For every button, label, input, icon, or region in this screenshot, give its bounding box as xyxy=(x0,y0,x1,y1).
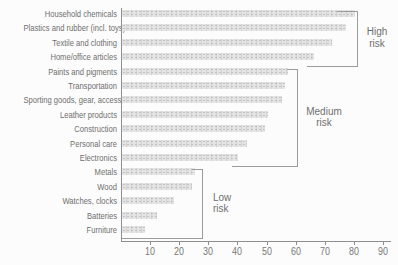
bar xyxy=(122,24,346,31)
category-label: Leather products xyxy=(23,109,117,120)
bar xyxy=(122,212,157,219)
category-label: Personal care xyxy=(23,138,117,149)
category-label: Paints and pigments xyxy=(23,66,117,77)
x-tick-label: 20 xyxy=(169,245,189,257)
category-label: Batteries xyxy=(23,210,117,221)
bar xyxy=(122,82,285,89)
bar xyxy=(122,111,268,118)
low-risk-label: Lowrisk xyxy=(213,192,253,215)
bar xyxy=(122,125,265,132)
bar xyxy=(122,226,145,233)
high-risk-bracket-top-tick xyxy=(337,11,357,12)
category-label: Watches, clocks xyxy=(23,195,117,206)
bar xyxy=(122,10,355,17)
x-tick-label: 30 xyxy=(198,245,218,257)
medium-risk-label-line: Medium xyxy=(301,106,347,118)
x-tick-label: 10 xyxy=(140,245,160,257)
x-tick-label: 60 xyxy=(285,245,305,257)
x-tick-label: 70 xyxy=(314,245,334,257)
x-axis-line xyxy=(121,241,391,242)
category-label: Wood xyxy=(23,181,117,192)
low-risk-bracket-vertical xyxy=(202,169,203,239)
category-label: Furniture xyxy=(23,224,117,235)
medium-risk-bracket-top-tick xyxy=(287,69,297,70)
category-label: Metals xyxy=(23,166,117,177)
category-label: Electronics xyxy=(23,152,117,163)
bar xyxy=(122,168,195,175)
high-risk-label-line: High xyxy=(361,26,393,38)
high-risk-bracket-vertical xyxy=(357,11,358,67)
high-risk-bracket-bottom-tick xyxy=(307,66,357,67)
bar xyxy=(122,197,174,204)
bar xyxy=(122,154,238,161)
high-risk-label: Highrisk xyxy=(361,26,393,49)
medium-risk-bracket-bottom-tick xyxy=(232,166,297,167)
medium-risk-label: Mediumrisk xyxy=(301,106,347,129)
x-tick-label: 40 xyxy=(227,245,247,257)
risk-bar-chart: Household chemicalsPlastics and rubber (… xyxy=(0,0,398,265)
bar xyxy=(122,140,247,147)
low-risk-bracket-bottom-tick xyxy=(122,238,202,239)
bar xyxy=(122,39,332,46)
high-risk-label-line: risk xyxy=(361,38,393,50)
category-label: Household chemicals xyxy=(23,8,117,19)
bar xyxy=(122,68,288,75)
category-label: Construction xyxy=(23,123,117,134)
low-risk-bracket-top-tick xyxy=(192,169,202,170)
category-label: Textile and clothing xyxy=(23,37,117,48)
medium-risk-label-line: risk xyxy=(301,117,347,129)
x-tick-label: 50 xyxy=(256,245,276,257)
category-label: Sporting goods, gear, accessories xyxy=(23,94,117,105)
low-risk-label-line: Low xyxy=(213,192,253,204)
x-tick-label: 90 xyxy=(373,245,393,257)
y-axis-line xyxy=(121,8,122,241)
bar xyxy=(122,183,192,190)
medium-risk-bracket-vertical xyxy=(297,69,298,168)
category-label: Plastics and rubber (incl. toys) xyxy=(23,22,117,33)
bar xyxy=(122,96,282,103)
bar xyxy=(122,53,314,60)
low-risk-label-line: risk xyxy=(213,203,253,215)
category-label: Home/office articles xyxy=(23,51,117,62)
x-tick-label: 80 xyxy=(344,245,364,257)
category-label: Transportation xyxy=(23,80,117,91)
